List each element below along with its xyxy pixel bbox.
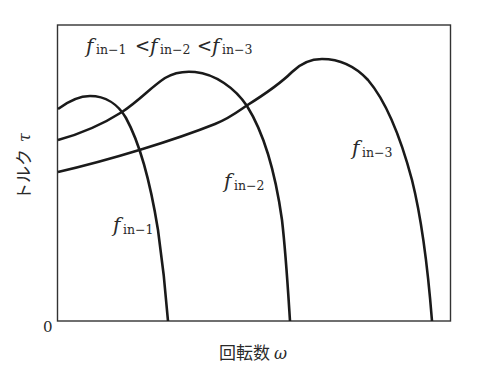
x-axis-label: 回転数 ω xyxy=(219,343,287,363)
subscript: in−3 xyxy=(362,145,393,160)
subscript: in−2 xyxy=(160,42,190,57)
subscript: in−1 xyxy=(123,222,153,237)
plot-frame xyxy=(58,25,451,321)
y-axis-symbol: τ xyxy=(15,132,34,142)
curve-label-f-in-3: f in−3 xyxy=(350,136,393,160)
curve-label-f-in-1: f in−1 xyxy=(111,213,153,237)
y-axis-label-jp: トルク xyxy=(14,149,34,200)
curve-f-in-1 xyxy=(58,96,168,321)
less-than: < xyxy=(135,35,150,56)
subscript: in−2 xyxy=(234,178,264,193)
subscript: in−3 xyxy=(222,42,253,57)
x-axis-symbol: ω xyxy=(274,344,287,363)
torque-speed-diagram: f in−1 < f in−2 < f in−3 f in−1 f in−2 f… xyxy=(0,0,477,371)
origin-label: 0 xyxy=(43,318,53,336)
curve-f-in-2 xyxy=(58,72,290,321)
subscript: in−1 xyxy=(96,42,126,57)
frequency-inequality-label: f in−1 < f in−2 < f in−3 xyxy=(84,34,253,58)
curve-label-f-in-2: f in−2 xyxy=(222,169,264,193)
x-axis-label-jp: 回転数 xyxy=(219,343,270,363)
less-than: < xyxy=(197,35,212,56)
y-axis-label: トルク τ xyxy=(14,132,34,200)
